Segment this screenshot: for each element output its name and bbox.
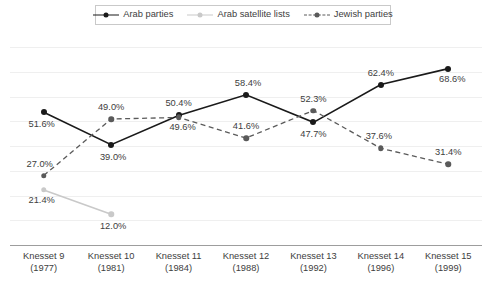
x-axis-tick-line2-4: (1992): [280, 262, 347, 274]
x-axis-tick-0: Knesset 9(1977): [10, 250, 77, 284]
circle-marker-darkgray: [304, 10, 330, 19]
data-label-0-3: 58.4%: [235, 79, 261, 88]
legend-item-2[interactable]: Jewish parties: [304, 10, 393, 19]
data-point-0-0[interactable]: [41, 109, 47, 115]
legend-item-1[interactable]: Arab satellite lists: [187, 10, 289, 19]
series-lines: [10, 47, 482, 245]
x-axis-tick-5: Knesset 14(1996): [347, 250, 414, 284]
data-point-0-4[interactable]: [310, 119, 316, 125]
data-point-0-1[interactable]: [108, 142, 114, 148]
x-axis-tick-line2-1: (1981): [77, 262, 144, 274]
x-axis-tick-1: Knesset 10(1981): [77, 250, 144, 284]
chart-legend: Arab partiesArab satellite listsJewish p…: [95, 5, 391, 25]
x-axis-tick-line1-6: Knesset 15: [425, 251, 472, 261]
data-label-2-2: 49.6%: [169, 123, 195, 132]
x-axis-tick-3: Knesset 12(1988): [212, 250, 279, 284]
data-label-1-1: 12.0%: [100, 222, 126, 231]
data-label-0-5: 62.4%: [368, 69, 394, 78]
data-point-1-0[interactable]: [41, 187, 47, 193]
data-point-1-1[interactable]: [108, 211, 114, 217]
x-axis-tick-line1-5: Knesset 14: [358, 251, 405, 261]
x-axis-tick-line2-5: (1996): [347, 262, 414, 274]
legend-label-2: Jewish parties: [334, 10, 393, 19]
x-axis-tick-line2-0: (1977): [10, 262, 77, 274]
circle-marker-lightgray: [187, 10, 213, 19]
legend-label-1: Arab satellite lists: [217, 10, 289, 19]
data-label-2-0: 27.0%: [27, 160, 53, 169]
data-point-2-0[interactable]: [41, 173, 47, 179]
x-axis-tick-4: Knesset 13(1992): [280, 250, 347, 284]
data-point-2-6[interactable]: [446, 162, 452, 168]
data-label-2-6: 31.4%: [435, 148, 461, 157]
x-axis-tick-line1-4: Knesset 13: [290, 251, 337, 261]
x-axis-tick-line1-0: Knesset 9: [23, 251, 64, 261]
x-axis-tick-line2-6: (1999): [415, 262, 482, 274]
x-axis-labels: Knesset 9(1977)Knesset 10(1981)Knesset 1…: [10, 250, 482, 284]
data-label-2-3: 41.6%: [233, 122, 259, 131]
data-point-2-5[interactable]: [378, 146, 384, 152]
legend-label-0: Arab parties: [123, 10, 173, 19]
x-axis-tick-line1-3: Knesset 12: [223, 251, 270, 261]
plot-area: 51.6%39.0%50.4%58.4%47.7%62.4%68.6%21.4%…: [10, 47, 482, 245]
data-point-2-2[interactable]: [176, 115, 182, 121]
x-axis-tick-line2-3: (1988): [212, 262, 279, 274]
data-label-0-2: 50.4%: [165, 99, 191, 108]
x-axis-line: [10, 245, 482, 246]
data-point-2-4[interactable]: [311, 108, 317, 114]
x-axis-tick-6: Knesset 15(1999): [415, 250, 482, 284]
legend-item-0[interactable]: Arab parties: [93, 10, 173, 19]
x-axis-tick-2: Knesset 11(1984): [145, 250, 212, 284]
data-point-2-3[interactable]: [243, 135, 249, 141]
data-point-0-6[interactable]: [445, 66, 451, 72]
data-label-2-5: 37.6%: [366, 132, 392, 141]
data-point-0-3[interactable]: [243, 92, 249, 98]
circle-marker-black: [93, 10, 119, 19]
data-label-2-1: 49.0%: [98, 103, 124, 112]
data-label-1-0: 21.4%: [29, 196, 55, 205]
data-label-0-1: 39.0%: [100, 153, 126, 162]
data-label-2-4: 52.3%: [300, 95, 326, 104]
data-label-0-6: 68.6%: [439, 75, 465, 84]
data-point-2-1[interactable]: [108, 116, 114, 122]
data-label-0-0: 51.6%: [29, 120, 55, 129]
x-axis-tick-line1-2: Knesset 11: [156, 251, 202, 261]
data-point-0-5[interactable]: [378, 82, 384, 88]
line-chart: Arab partiesArab satellite listsJewish p…: [0, 0, 492, 289]
data-label-0-4: 47.7%: [300, 130, 326, 139]
x-axis-tick-line1-1: Knesset 10: [88, 251, 135, 261]
x-axis-tick-line2-2: (1984): [145, 262, 212, 274]
